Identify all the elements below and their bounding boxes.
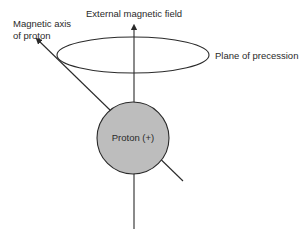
- proton-precession-diagram: External magnetic field Magnetic axis of…: [0, 0, 304, 230]
- precession-plane-ellipse: [57, 37, 209, 73]
- magnetic-axis-label-line2: of proton: [13, 30, 51, 41]
- proton-label: Proton (+): [112, 132, 155, 143]
- external-field-label: External magnetic field: [86, 8, 182, 19]
- magnetic-axis-label-line1: Magnetic axis: [13, 18, 71, 29]
- plane-of-precession-label: Plane of precession: [215, 50, 298, 61]
